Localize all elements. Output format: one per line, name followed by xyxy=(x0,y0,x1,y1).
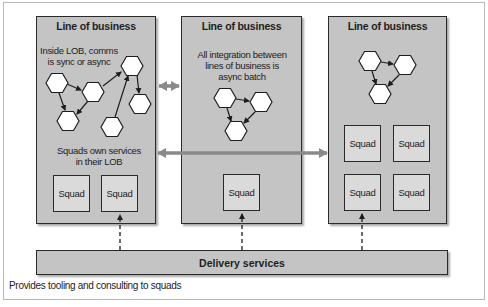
hexagon-service-icon xyxy=(214,89,272,141)
hexagon-service-icon xyxy=(359,52,416,104)
hexagon-service-icon xyxy=(46,57,151,137)
dashed-support-arrows xyxy=(120,214,362,250)
diagram-graphics xyxy=(0,0,488,307)
